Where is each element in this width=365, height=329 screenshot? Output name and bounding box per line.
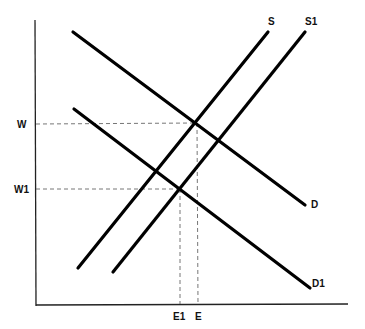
y-axis xyxy=(35,20,36,306)
label-d1: D1 xyxy=(312,278,325,289)
demand-curve-d1 xyxy=(74,109,310,288)
label-s: S xyxy=(268,16,275,27)
label-d: D xyxy=(311,199,318,210)
label-employment-e1: E1 xyxy=(173,311,186,322)
label-wage-w1: W1 xyxy=(14,184,29,195)
label-s1: S1 xyxy=(305,16,318,27)
label-wage-w: W xyxy=(17,119,27,130)
x-axis xyxy=(36,304,348,305)
supply-curve-s1 xyxy=(113,32,305,272)
supply-demand-diagram: S S1 D D1 W W1 E1 E xyxy=(0,0,365,329)
employment-e-guide xyxy=(197,123,198,304)
label-employment-e: E xyxy=(195,311,202,322)
wage-w-guide xyxy=(36,123,197,124)
